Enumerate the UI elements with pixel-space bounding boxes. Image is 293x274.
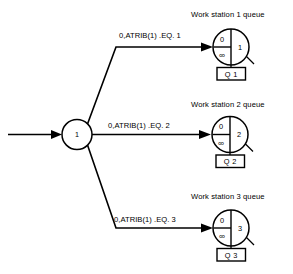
queue-number-2: 2 <box>237 130 241 139</box>
queue-initial-length-3: 0 <box>220 216 224 225</box>
branch-path-2 <box>92 130 211 139</box>
branch-label-1: 0,ATRIB(1) .EQ. 1 <box>119 31 181 40</box>
queue-box-label-1: Q 1 <box>225 70 238 79</box>
queue-initial-length-2: 0 <box>219 122 223 131</box>
station-title-1: Work station 1 queue <box>191 10 265 19</box>
queue-capacity-3: ∞ <box>219 231 225 241</box>
queue-box-label-2: Q 2 <box>224 157 237 166</box>
station-title-3: Work station 3 queue <box>191 192 265 201</box>
queue-box-1[interactable]: Q 1 <box>217 65 246 80</box>
entry-arrow <box>8 130 62 139</box>
diagram-canvas: 1 0,ATRIB(1) .EQ. 1 0,ATRIB(1) .EQ. 2 0,… <box>0 0 293 274</box>
queue-node-2[interactable]: 0 ∞ 2 <box>212 117 253 153</box>
queue-capacity-2: ∞ <box>218 138 224 148</box>
queue-node-3[interactable]: 0 ∞ 3 <box>213 210 254 246</box>
queue-number-1: 1 <box>238 43 242 52</box>
queue-box-2[interactable]: Q 2 <box>216 153 245 168</box>
branch-label-3: 0,ATRIB(1) .EQ. 3 <box>114 215 176 224</box>
queue-capacity-1: ∞ <box>219 50 225 60</box>
queue-box-3[interactable]: Q 3 <box>217 246 246 261</box>
network-diagram: 1 0,ATRIB(1) .EQ. 1 0,ATRIB(1) .EQ. 2 0,… <box>0 0 293 274</box>
queue-box-label-3: Q 3 <box>225 251 238 260</box>
queue-number-3: 3 <box>238 224 242 233</box>
queue-node-1[interactable]: 0 ∞ 1 <box>213 29 254 65</box>
station-title-2: Work station 2 queue <box>191 100 265 109</box>
branch-label-2: 0,ATRIB(1) .EQ. 2 <box>108 121 170 130</box>
branch-path-1 <box>88 43 214 125</box>
center-node-label: 1 <box>75 130 79 139</box>
queue-initial-length-1: 0 <box>220 35 224 44</box>
